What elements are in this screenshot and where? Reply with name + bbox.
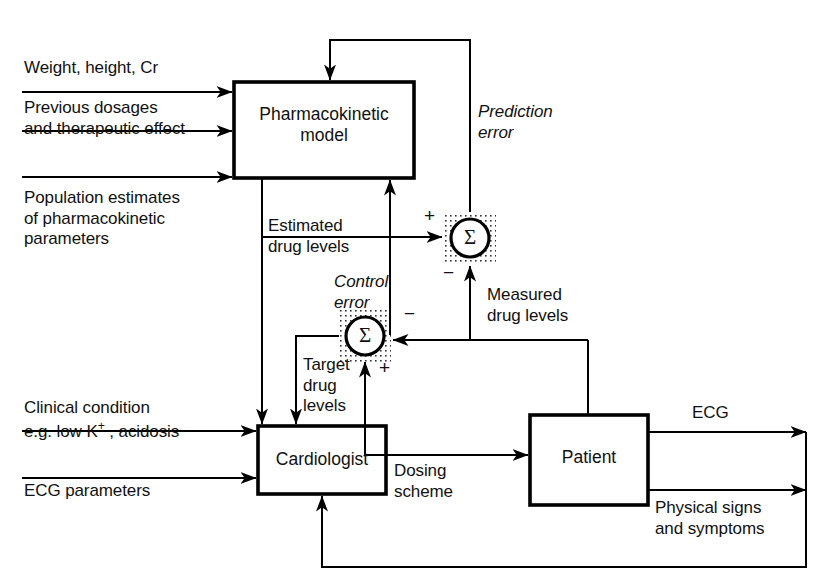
input-label-ecg-parameters: ECG parameters: [24, 481, 150, 502]
input-label-population-estimates: Population estimates of pharmacokinetic …: [24, 188, 180, 250]
target-drug-levels-line2: drug: [303, 376, 350, 397]
input-label-population-estimates-line3: parameters: [24, 229, 180, 250]
cardiologist-label: Cardiologist: [258, 449, 386, 470]
pharmacokinetic-model-label-line1: Pharmacokinetic: [234, 104, 414, 125]
target-drug-levels-line3: levels: [303, 396, 350, 417]
cardiologist-label-line1: Cardiologist: [258, 449, 386, 470]
signal-label-ecg-output: ECG: [692, 403, 729, 424]
input-label-population-estimates-line2: of pharmacokinetic: [24, 209, 180, 230]
measured-drug-levels-line1: Measured: [487, 285, 568, 306]
clinical-condition-superscript: +: [98, 419, 105, 433]
signal-label-prediction-error: Prediction error: [478, 102, 553, 143]
sign-plus-control: +: [379, 357, 390, 379]
input-label-clinical-condition-line2: e.g. low K+ , acidosis: [24, 419, 179, 442]
signal-label-physical-signs: Physical signs and symptoms: [655, 498, 764, 539]
dosing-scheme-line1: Dosing: [394, 461, 453, 482]
physical-signs-line2: and symptoms: [655, 519, 764, 540]
input-label-ecg-parameters-line1: ECG parameters: [24, 481, 150, 502]
dosing-scheme-line2: scheme: [394, 482, 453, 503]
sign-plus-prediction: +: [424, 205, 435, 227]
input-label-clinical-condition-line1: Clinical condition: [24, 398, 179, 419]
patient-label-line1: Patient: [530, 447, 648, 468]
input-label-previous-dosages-line2: and therapeutic effect: [24, 119, 185, 140]
input-label-weight-height-cr-line1: Weight, height, Cr: [24, 58, 158, 79]
signal-label-measured-drug-levels: Measured drug levels: [487, 285, 568, 326]
control-error-line1: Control: [334, 272, 388, 293]
signal-label-dosing-scheme: Dosing scheme: [394, 461, 453, 502]
target-drug-levels-line1: Target: [303, 355, 350, 376]
clinical-condition-pre: e.g. low K: [24, 421, 98, 440]
input-label-weight-height-cr: Weight, height, Cr: [24, 58, 158, 79]
prediction-error-line2: error: [478, 123, 553, 144]
measured-drug-levels-line2: drug levels: [487, 306, 568, 327]
input-label-clinical-condition: Clinical condition e.g. low K+ , acidosi…: [24, 398, 179, 442]
sign-minus-prediction: −: [443, 262, 454, 284]
clinical-condition-post: , acidosis: [105, 421, 180, 440]
control-sum-sigma-symbol: Σ: [350, 323, 380, 348]
sign-minus-control: −: [404, 303, 415, 325]
input-label-population-estimates-line1: Population estimates: [24, 188, 180, 209]
patient-label: Patient: [530, 447, 648, 468]
pharmacokinetic-control-diagram: Pharmacokinetic model Cardiologist Patie…: [0, 0, 816, 588]
control-error-line2: error: [334, 293, 388, 314]
physical-signs-line1: Physical signs: [655, 498, 764, 519]
input-label-previous-dosages: Previous dosages and therapeutic effect: [24, 98, 185, 139]
prediction-error-line1: Prediction: [478, 102, 553, 123]
signal-label-control-error: Control error: [334, 272, 388, 313]
ecg-output-line1: ECG: [692, 403, 729, 424]
signal-label-target-drug-levels: Target drug levels: [303, 355, 350, 417]
pharmacokinetic-model-label-line2: model: [234, 125, 414, 146]
prediction-sum-sigma-symbol: Σ: [455, 225, 485, 250]
pharmacokinetic-model-label: Pharmacokinetic model: [234, 104, 414, 146]
estimated-drug-levels-line2: drug levels: [268, 237, 349, 258]
signal-label-estimated-drug-levels: Estimated drug levels: [268, 216, 349, 257]
input-label-previous-dosages-line1: Previous dosages: [24, 98, 185, 119]
estimated-drug-levels-line1: Estimated: [268, 216, 349, 237]
